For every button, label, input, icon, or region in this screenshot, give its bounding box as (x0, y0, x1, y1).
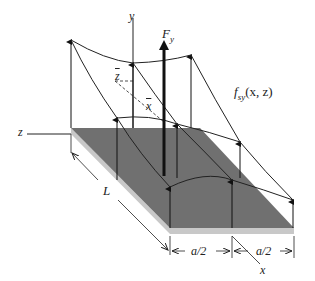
y-axis-label: y (129, 10, 134, 22)
zbar-label: z (115, 70, 120, 82)
force-label: Fy (162, 27, 174, 44)
plate-top (71, 128, 294, 228)
x-axis-label: x (260, 264, 265, 276)
xbar-label: x (146, 100, 151, 112)
length-label: L (103, 184, 110, 197)
half-width-label-1: a/2 (191, 245, 206, 257)
diagram-canvas: y z x Fy fsy(x, z) z x L a/2 a/2 (0, 0, 315, 281)
z-axis-label: z (18, 126, 23, 138)
half-width-label-2: a/2 (256, 245, 271, 257)
distribution-function-label: fsy(x, z) (234, 85, 273, 102)
plate-force-diagram (0, 0, 315, 281)
